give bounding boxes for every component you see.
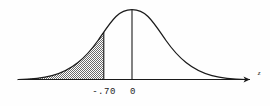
axis-variable-label: z	[258, 70, 261, 77]
shaded-tail-region	[18, 10, 132, 80]
axis-tick-label-neg70: -.70	[92, 88, 116, 97]
normal-curve-figure: -.70 0 z	[0, 0, 270, 106]
axis-tick-label-zero: 0	[130, 88, 136, 97]
